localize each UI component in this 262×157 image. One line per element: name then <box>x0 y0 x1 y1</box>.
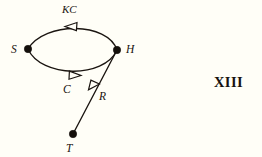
plate-number: XIII <box>214 75 243 90</box>
edge-label-r: R <box>99 91 106 103</box>
arrowhead-c-icon <box>69 71 81 79</box>
node-label-h: H <box>126 44 134 56</box>
node-dot-s[interactable] <box>24 45 31 52</box>
edge-path-kc[interactable] <box>28 28 117 50</box>
node-label-s: S <box>11 44 17 56</box>
node-dot-t[interactable] <box>69 130 76 137</box>
edge-label-c: C <box>63 84 71 96</box>
arrowhead-r-icon <box>89 80 100 90</box>
figure-root: S H T KC C R XIII <box>0 0 262 157</box>
node-dot-h[interactable] <box>113 46 120 53</box>
node-label-t: T <box>66 143 72 155</box>
edge-path-c[interactable] <box>28 49 117 71</box>
edge-path-r[interactable] <box>73 50 117 134</box>
edge-label-kc: KC <box>62 4 77 15</box>
